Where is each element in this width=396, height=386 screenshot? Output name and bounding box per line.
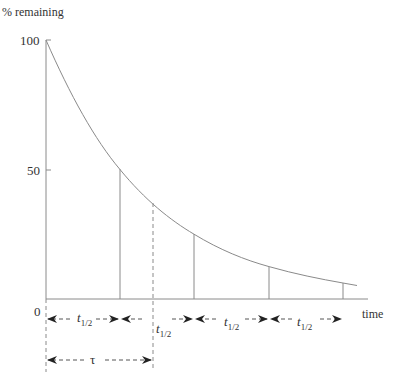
tau-label: τ xyxy=(90,352,95,367)
half-life-diagram: % remaining 100 50 0 time t1/2 t1/2 t1/2… xyxy=(0,0,396,386)
decay-curve xyxy=(46,40,357,286)
tick-label-100: 100 xyxy=(20,33,40,48)
half-life-label-2: t1/2 xyxy=(156,321,171,339)
tick-label-0: 0 xyxy=(34,304,41,319)
half-life-label-3: t1/2 xyxy=(224,314,239,332)
x-axis-label: time xyxy=(362,307,383,321)
half-life-label-4: t1/2 xyxy=(297,314,312,332)
half-life-label-1: t1/2 xyxy=(77,310,92,328)
tick-label-50: 50 xyxy=(27,163,40,178)
y-axis-label: % remaining xyxy=(2,5,64,19)
